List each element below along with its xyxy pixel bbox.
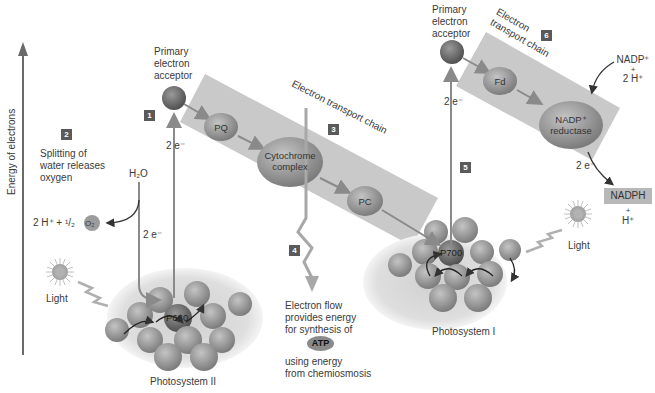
cytochrome-label: Cytochrome complex [262, 150, 318, 172]
psi-primary-acceptor [440, 40, 464, 64]
pc-label: PC [350, 196, 380, 207]
step-badge-2: 2 [61, 129, 72, 140]
photosynthesis-diagram: Energy of electrons 1 2 3 4 5 6 Primary … [0, 0, 655, 393]
water-products-label: 2 H⁺ + ¹/₂ [33, 217, 75, 229]
photosystem-i-label: Photosystem I [432, 326, 495, 338]
nadph-extra-label: + H⁺ [612, 207, 644, 227]
psi-light-label: Light [568, 240, 590, 252]
step-4-text-after: using energy from chemiosmosis [285, 356, 371, 380]
pq-label: PQ [206, 122, 236, 133]
nadph-badge: NADPH [604, 188, 652, 204]
water-electron-label: 2 e⁻ [143, 229, 162, 241]
psi-acceptor-label: Primary electron acceptor [432, 4, 470, 40]
water-label: H₂O [129, 168, 148, 180]
nadp-input-arrow [592, 62, 614, 92]
atp-badge: ATP [307, 336, 334, 351]
step-badge-4: 4 [289, 245, 300, 256]
p700-label: P700 [440, 247, 462, 259]
water-split-arrow [108, 200, 139, 223]
step-badge-1: 1 [144, 110, 155, 121]
step-2-text: Splitting of water releases oxygen [40, 148, 105, 184]
energy-axis [18, 42, 28, 355]
nadp-input-label: NADP⁺ + 2 H⁺ [614, 54, 652, 85]
fd-label: Fd [486, 76, 514, 87]
etc2-electron-label: 2 e⁻ [576, 160, 595, 172]
psii-light-label: Light [46, 293, 68, 305]
psii-electron-label: 2 e⁻ [166, 140, 185, 152]
nadp-reductase-label: NADP⁺ reductase [543, 114, 599, 136]
step-badge-5: 5 [460, 162, 471, 173]
psii-acceptor-label: Primary electron acceptor [154, 46, 192, 82]
psi-electron-label: 2 e⁻ [444, 96, 463, 108]
energy-axis-label: Energy of electrons [6, 109, 17, 195]
photosystem-ii-label: Photosystem II [150, 376, 216, 388]
step-badge-3: 3 [328, 124, 339, 135]
psii-primary-acceptor [162, 86, 186, 110]
p680-label: P680 [166, 312, 188, 324]
oxygen-label: O₂ [85, 218, 94, 230]
step-4-text: Electron flow provides energy for synthe… [285, 300, 356, 336]
